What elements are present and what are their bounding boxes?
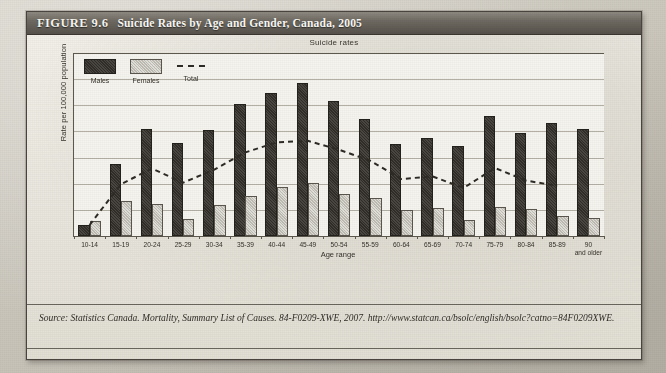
figure-label: FIGURE 9.6 bbox=[37, 16, 108, 31]
legend-swatch-females-icon bbox=[130, 59, 162, 74]
plot-area: 0.05.010.015.020.025.030.035.0 10-1415-1… bbox=[73, 53, 604, 237]
x-tick bbox=[105, 236, 106, 239]
figure-source: Source: Statistics Canada. Mortality, Su… bbox=[39, 312, 629, 325]
x-tick-label: 75-79 bbox=[479, 241, 510, 249]
x-tick-label: 30-34 bbox=[199, 241, 230, 249]
x-tick-label: 70-74 bbox=[448, 241, 479, 249]
legend-item-females: Females bbox=[130, 59, 162, 84]
legend-swatch-males-icon bbox=[84, 59, 116, 74]
chart-area: Suicide rates Rate per 100,000 populatio… bbox=[27, 34, 641, 304]
x-tick-label: 65-69 bbox=[417, 241, 448, 249]
x-tick-label: 20-24 bbox=[136, 241, 167, 249]
x-tick bbox=[542, 236, 543, 239]
x-tick bbox=[74, 236, 75, 239]
figure-panel: FIGURE 9.6 Suicide Rates by Age and Gend… bbox=[26, 11, 642, 360]
x-tick-label: 40-44 bbox=[261, 241, 292, 249]
legend-item-total: Total bbox=[176, 59, 206, 82]
legend-swatch-total-icon bbox=[176, 59, 206, 72]
x-tick-label: 10-14 bbox=[74, 241, 105, 249]
x-tick bbox=[292, 236, 293, 239]
legend-item-males: Males bbox=[84, 59, 116, 84]
x-tick bbox=[604, 236, 605, 239]
x-tick bbox=[136, 236, 137, 239]
x-tick bbox=[417, 236, 418, 239]
x-tick bbox=[323, 236, 324, 239]
figure-title: Suicide Rates by Age and Gender, Canada,… bbox=[117, 17, 362, 29]
x-tick-label: 35-39 bbox=[230, 241, 261, 249]
x-tick-label: 45-49 bbox=[292, 241, 323, 249]
total-polyline bbox=[90, 141, 558, 225]
x-tick bbox=[448, 236, 449, 239]
x-tick bbox=[168, 236, 169, 239]
chart-title: Suicide rates bbox=[27, 38, 641, 47]
x-tick bbox=[261, 236, 262, 239]
x-tick-label: 55-59 bbox=[355, 241, 386, 249]
x-tick-label: 25-29 bbox=[168, 241, 199, 249]
legend-label-males: Males bbox=[91, 77, 110, 84]
x-tick bbox=[199, 236, 200, 239]
x-tick bbox=[510, 236, 511, 239]
bottom-divider bbox=[27, 348, 641, 349]
x-tick bbox=[386, 236, 387, 239]
x-axis-title: Age range bbox=[73, 250, 603, 259]
source-divider bbox=[27, 304, 641, 305]
figure-header: FIGURE 9.6 Suicide Rates by Age and Gend… bbox=[27, 12, 641, 35]
x-tick-label: 50-54 bbox=[323, 241, 354, 249]
x-tick bbox=[573, 236, 574, 239]
x-tick-label: 85-89 bbox=[542, 241, 573, 249]
chart-legend: Males Females Total bbox=[84, 59, 206, 84]
y-axis-title: Rate per 100,000 population bbox=[59, 23, 68, 163]
x-tick-label: 60-64 bbox=[386, 241, 417, 249]
legend-label-females: Females bbox=[133, 77, 160, 84]
x-tick-label: 15-19 bbox=[105, 241, 136, 249]
x-tick bbox=[355, 236, 356, 239]
x-tick bbox=[479, 236, 480, 239]
x-tick-label: 80-84 bbox=[510, 241, 541, 249]
legend-label-total: Total bbox=[184, 75, 199, 82]
x-tick bbox=[230, 236, 231, 239]
